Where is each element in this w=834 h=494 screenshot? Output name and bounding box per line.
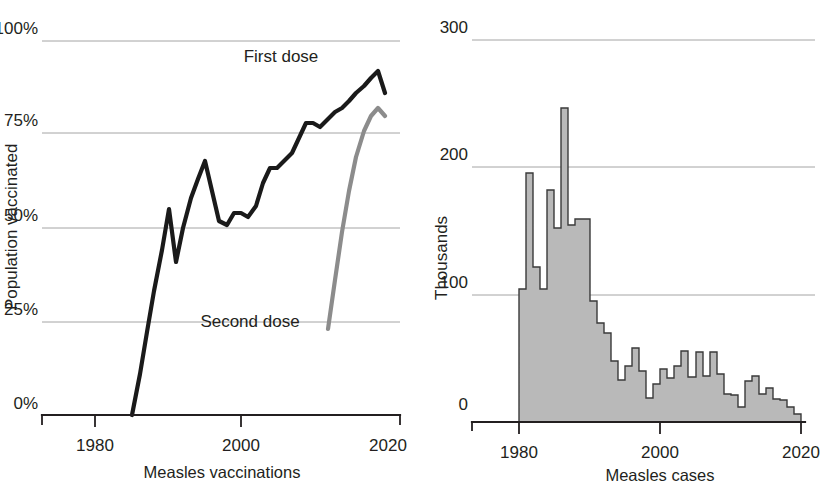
measles-figure: 100% 75% 50% 25% 0% Population vaccinate… — [0, 0, 834, 494]
gridlines-left — [42, 41, 400, 322]
xaxis-title-right: Measles cases — [605, 466, 714, 484]
ytick-label-75: 75% — [4, 111, 38, 130]
xtick-label-2000-right: 2000 — [641, 443, 679, 462]
ytick-label-0: 0 — [459, 395, 468, 414]
xtick-label-2020-right: 2020 — [782, 443, 820, 462]
ytick-label-100: 100% — [0, 19, 38, 38]
panel-measles-cases: 300 200 100 0 Thousands 1980 2000 2020 M… — [420, 0, 834, 494]
vaccination-line-chart: 100% 75% 50% 25% 0% Population vaccinate… — [0, 0, 420, 494]
cases-histogram-chart: 300 200 100 0 Thousands 1980 2000 2020 M… — [420, 0, 834, 494]
xtick-label-2020-left: 2020 — [369, 436, 407, 455]
xtick-label-1980-left: 1980 — [76, 436, 114, 455]
first-dose-label: First dose — [244, 47, 319, 66]
yaxis-title-left: Population vaccinated — [2, 144, 21, 310]
gridlines-right — [472, 40, 815, 295]
ytick-label-0: 0% — [13, 394, 38, 413]
xtick-label-2000-left: 2000 — [222, 436, 260, 455]
xaxis-title-left: Measles vaccinations — [144, 463, 301, 481]
second-dose-label: Second dose — [200, 312, 299, 331]
second-dose-line — [328, 108, 385, 329]
cases-histogram-area — [519, 108, 801, 422]
ytick-label-200: 200 — [440, 145, 468, 164]
first-dose-line — [132, 71, 385, 415]
yaxis-title-right: Thousands — [432, 216, 451, 300]
panel-measles-vaccinations: 100% 75% 50% 25% 0% Population vaccinate… — [0, 0, 420, 494]
ytick-label-300: 300 — [440, 18, 468, 37]
xtick-label-1980-right: 1980 — [500, 443, 538, 462]
